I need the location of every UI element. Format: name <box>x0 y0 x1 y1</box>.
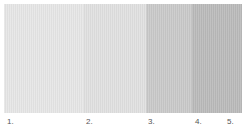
swatch-1 <box>4 4 83 113</box>
swatch-4 <box>192 4 242 113</box>
label-2: 2. <box>86 117 93 127</box>
label-4: 4. <box>195 117 202 127</box>
swatch-labels: 1. 2. 3. 4. 5. <box>0 117 246 129</box>
label-1: 1. <box>7 117 14 127</box>
label-5: 5. <box>227 117 234 127</box>
grey-swatch-strip <box>4 4 242 113</box>
swatch-2 <box>83 4 146 113</box>
label-3: 3. <box>148 117 155 127</box>
swatch-3 <box>146 4 192 113</box>
